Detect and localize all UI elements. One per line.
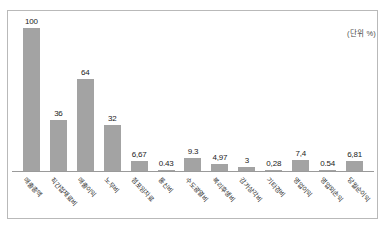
bar-value-label: 0.43 <box>159 160 174 168</box>
bar-value-label: 0,28 <box>266 160 281 168</box>
bar-item: 7,4 <box>287 14 314 171</box>
bar-item: 36 <box>45 14 72 171</box>
bar-item: 9.3 <box>180 14 207 171</box>
category-label: 매출총액 <box>22 175 45 199</box>
category-label: 영업이익 <box>291 175 314 199</box>
category-label: 매출이익 <box>76 175 99 199</box>
bar-rect <box>292 160 309 171</box>
bar-rect <box>23 28 40 171</box>
bar-item: 4,97 <box>206 14 233 171</box>
x-axis-category-labels: 매출총액직간접재료비매출이익노무비점포임차료통신비수도광열비복리후생비감가상각비… <box>16 172 370 230</box>
bar-rect <box>50 120 67 171</box>
bar-item: 0.54 <box>314 14 341 171</box>
category-slot: 노무비 <box>99 172 126 230</box>
plot-area: 1003664326,670.439.34,9730,287,40.546,81 <box>16 14 370 171</box>
bar-rect <box>211 164 228 171</box>
bar-rect <box>184 158 201 171</box>
category-slot: 통신비 <box>153 172 180 230</box>
category-label: 통신비 <box>157 175 176 195</box>
bar-item: 0.43 <box>153 14 180 171</box>
bar-rect <box>131 161 148 171</box>
bar-item: 32 <box>99 14 126 171</box>
bar-item: 6,67 <box>126 14 153 171</box>
bar-item: 64 <box>72 14 99 171</box>
bar-value-label: 36 <box>54 110 63 118</box>
bar-value-label: 9.3 <box>188 148 199 156</box>
bar-item: 100 <box>18 14 45 171</box>
category-label: 당월순이익 <box>345 175 372 203</box>
category-label: 노무비 <box>103 175 122 195</box>
bar-value-label: 3 <box>245 157 249 165</box>
category-slot: 수도광열비 <box>180 172 207 230</box>
bar-value-label: 64 <box>81 69 90 77</box>
bar-rect <box>346 161 363 171</box>
bar-value-label: 6,67 <box>132 151 147 159</box>
category-slot: 매출총액 <box>18 172 45 230</box>
category-slot: 영업외손익 <box>314 172 341 230</box>
bar-rect <box>104 125 121 171</box>
bar-value-label: 0.54 <box>320 160 335 168</box>
bar-value-label: 7,4 <box>295 150 306 158</box>
category-slot: 감가상각비 <box>233 172 260 230</box>
bar-value-label: 100 <box>25 18 38 26</box>
bar-item: 6,81 <box>341 14 368 171</box>
category-slot: 복리후생비 <box>206 172 233 230</box>
category-slot: 매출이익 <box>72 172 99 230</box>
category-label: 기타경비 <box>264 175 287 199</box>
bar-value-label: 6,81 <box>347 151 362 159</box>
bar-value-label: 4,97 <box>213 154 228 162</box>
bar-item: 3 <box>233 14 260 171</box>
bar-rect <box>77 79 94 171</box>
bar-item: 0,28 <box>260 14 287 171</box>
category-slot: 기타경비 <box>260 172 287 230</box>
category-slot: 영업이익 <box>287 172 314 230</box>
category-slot: 직간접재료비 <box>45 172 72 230</box>
category-slot: 당월순이익 <box>341 172 368 230</box>
bar-series: 1003664326,670.439.34,9730,287,40.546,81 <box>16 14 370 171</box>
bar-chart-figure: (단위 %) 1003664326,670.439.34,9730,287,40… <box>0 0 386 238</box>
bar-value-label: 32 <box>108 115 117 123</box>
category-slot: 점포임차료 <box>126 172 153 230</box>
